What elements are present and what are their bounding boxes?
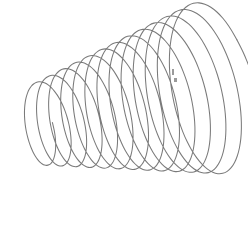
figure-canvas: Conical helix line drawing Hand-drawn ou…	[0, 0, 248, 227]
conical-helix-drawing: Conical helix line drawing Hand-drawn ou…	[0, 0, 248, 227]
pencil-tick	[172, 69, 174, 75]
pencil-speck	[174, 78, 177, 82]
